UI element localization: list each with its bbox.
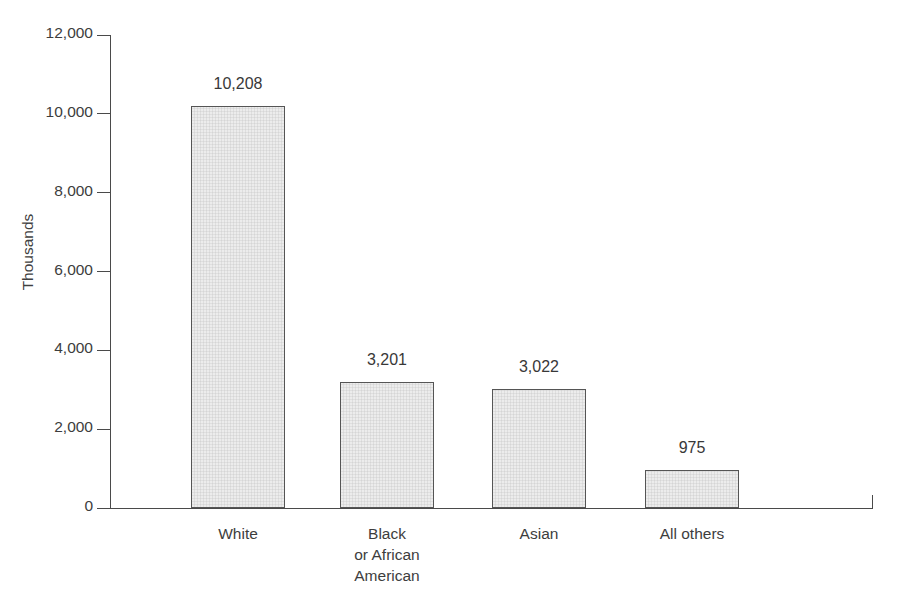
x-axis-category-label: All others: [600, 523, 784, 544]
y-axis-tick: [97, 35, 111, 36]
category-label-line: All others: [600, 523, 784, 544]
y-axis-tick-label: 12,000: [46, 24, 93, 42]
bar: [645, 470, 739, 508]
y-axis-tick: [97, 113, 111, 114]
bar-value-label: 3,022: [462, 358, 616, 376]
y-axis-tick: [97, 271, 111, 272]
y-axis-tick-label: 10,000: [46, 103, 93, 121]
y-axis-tick: [97, 350, 111, 351]
bar-chart-figure: Thousands 02,0004,0006,0008,00010,00012,…: [0, 0, 898, 596]
bar-value-label: 3,201: [310, 351, 464, 369]
category-label-line: American: [295, 565, 479, 586]
category-label-line: or African: [295, 544, 479, 565]
y-axis-line: [110, 35, 111, 509]
bar-value-label: 975: [615, 439, 769, 457]
y-axis-tick-label: 4,000: [54, 339, 93, 357]
bar: [492, 389, 586, 508]
bar: [340, 382, 434, 508]
y-axis-title: Thousands: [19, 172, 37, 332]
x-axis-line: [110, 508, 873, 509]
y-axis-tick: [97, 508, 111, 509]
y-axis-tick: [97, 429, 111, 430]
bar-value-label: 10,208: [161, 75, 315, 93]
y-axis-tick: [97, 192, 111, 193]
y-axis-tick-label: 8,000: [54, 182, 93, 200]
y-axis-tick-label: 0: [84, 497, 93, 515]
y-axis-tick-label: 2,000: [54, 418, 93, 436]
x-axis-end-tick: [872, 495, 873, 509]
bar: [191, 106, 285, 508]
y-axis-tick-label: 6,000: [54, 261, 93, 279]
